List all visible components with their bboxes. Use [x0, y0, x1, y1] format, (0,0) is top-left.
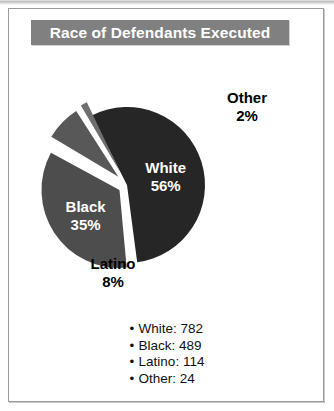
legend-item-label: White: 782: [139, 321, 204, 336]
slice-percent-latino: 8%: [102, 273, 124, 290]
slice-percent-black: 35%: [71, 216, 101, 233]
legend-item-label: Black: 489: [139, 338, 202, 353]
chart-card: Race of Defendants Executed White56%Blac…: [8, 8, 324, 402]
legend-item: •White: 782: [130, 321, 205, 338]
page-title: Race of Defendants Executed: [50, 24, 271, 42]
legend-item-label: Latino: 114: [139, 354, 205, 369]
scan-edge-artifact: [0, 0, 334, 5]
bullet-icon: •: [130, 338, 139, 355]
pie-chart-area: White56%Black35%Latino8%Other2%: [9, 57, 323, 302]
pie-chart-svg: White56%Black35%Latino8%Other2%: [9, 57, 323, 302]
legend-item: •Other: 24: [130, 371, 205, 388]
legend-list: •White: 782•Black: 489•Latino: 114•Other…: [130, 321, 205, 387]
slice-label-white: White: [145, 159, 186, 176]
slice-percent-white: 56%: [151, 177, 181, 194]
slice-percent-other: 2%: [236, 107, 258, 124]
bullet-icon: •: [130, 371, 139, 388]
bullet-icon: •: [130, 321, 139, 338]
slice-label-black: Black: [66, 198, 107, 215]
slice-label-other: Other: [227, 89, 267, 106]
chart-title-bar: Race of Defendants Executed: [31, 20, 289, 45]
bullet-icon: •: [130, 354, 139, 371]
slice-label-latino: Latino: [91, 255, 136, 272]
legend-item: •Black: 489: [130, 338, 205, 355]
legend-item: •Latino: 114: [130, 354, 205, 371]
legend-item-label: Other: 24: [139, 371, 195, 386]
legend: •White: 782•Black: 489•Latino: 114•Other…: [9, 321, 325, 387]
